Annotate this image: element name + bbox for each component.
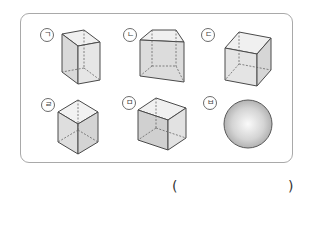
option-marker: ㅁ — [126, 98, 133, 107]
option-label-3: ㄷ — [201, 28, 215, 42]
cube-icon — [223, 30, 275, 88]
rectangular-prism-icon — [58, 28, 104, 86]
answer-blank[interactable] — [186, 178, 286, 196]
option-label-4: ㄹ — [41, 98, 55, 112]
option-label-1: ㄱ — [40, 28, 54, 42]
option-label-5: ㅁ — [122, 96, 136, 110]
cube-vertex-icon — [54, 98, 102, 158]
option-marker: ㄱ — [44, 30, 51, 39]
option-label-6: ㅂ — [203, 96, 217, 110]
option-label-2: ㄴ — [123, 28, 137, 42]
option-marker: ㄷ — [205, 30, 212, 39]
answer-open-paren: ( — [172, 178, 177, 194]
sphere-icon — [222, 98, 276, 152]
truncated-prism-icon — [138, 26, 190, 86]
wide-prism-icon — [136, 96, 190, 154]
option-marker: ㄴ — [127, 30, 134, 39]
option-marker: ㅂ — [207, 98, 214, 107]
option-marker: ㄹ — [45, 100, 52, 109]
answer-close-paren: ) — [288, 178, 293, 194]
